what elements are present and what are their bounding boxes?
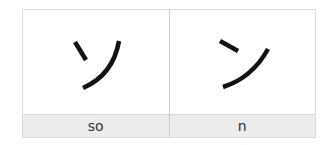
- kana-glyph-so: [23, 10, 169, 114]
- kana-card-n: n: [169, 10, 316, 137]
- kana-table: so n: [22, 9, 316, 138]
- kana-glyph-n: [170, 10, 316, 114]
- romaji-label: so: [23, 114, 169, 137]
- kana-card-so: so: [23, 10, 169, 137]
- romaji-label: n: [170, 114, 316, 137]
